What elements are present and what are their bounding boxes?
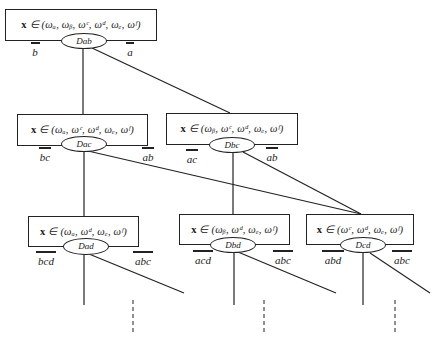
node-cd-set: x ∈ (ωᶜ, ωᵈ, ωₑ, ωᶠ) [307, 223, 413, 235]
label-ac-left: bc [36, 147, 54, 163]
edge-dbc-cd [243, 152, 361, 214]
decision-dad: Dad [63, 238, 109, 255]
edge-layer [0, 0, 436, 345]
decision-dbd: Dbd [210, 237, 256, 253]
label-ad-right: abc [131, 251, 155, 267]
label-ad-left: bcd [34, 251, 58, 267]
label-bd-left: acd [191, 250, 215, 266]
node-ad-set: x ∈ (ωₐ, ωᵈ, ωₑ, ωᶠ) [29, 225, 138, 237]
label-bc-left: ac [183, 149, 201, 165]
node-ab-set: x ∈ (ωₐ, ωᵦ, ωᶜ, ωᵈ, ωₑ, ωᶠ) [6, 18, 156, 30]
label-bc-right: ab [263, 147, 281, 163]
decision-dac: Dac [61, 136, 107, 152]
label-ab-left: b [28, 42, 42, 58]
decision-dbc: Dbc [209, 137, 255, 153]
edge-dac-cd [88, 151, 361, 214]
label-ab-right: a [123, 42, 137, 58]
decision-dab: Dab [61, 33, 107, 49]
node-bd-set: x ∈ (ωᵦ, ωᵈ, ωₑ, ωᶠ) [180, 223, 289, 235]
label-bd-right: abc [271, 250, 295, 266]
node-bc-set: x ∈ (ωᵦ, ωᶜ, ωᵈ, ωₑ, ωᶠ) [167, 122, 297, 134]
label-cd-right: abc [390, 250, 414, 266]
edge-dab-bc [92, 48, 230, 113]
node-ac-set: x ∈ (ωₐ, ωᶜ, ωᵈ, ωₑ, ωᶠ) [18, 123, 147, 135]
decision-dcd: Dcd [340, 237, 386, 253]
label-cd-left: abd [321, 250, 345, 266]
label-ac-right: ab [139, 147, 157, 163]
